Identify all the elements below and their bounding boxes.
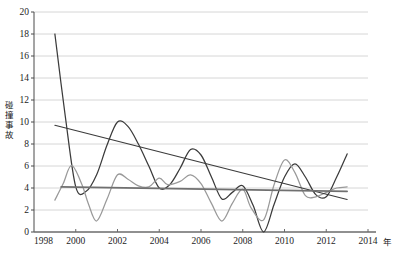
data-series-line xyxy=(55,34,347,232)
y-axis-title-char: 事 xyxy=(5,120,14,130)
y-tick-label: 16 xyxy=(20,51,30,61)
x-tick-label: 2000 xyxy=(66,236,85,246)
x-tick-label: 2004 xyxy=(150,236,169,246)
y-axis-title-char: 碰 xyxy=(5,100,14,110)
y-tick-label: 14 xyxy=(20,73,30,83)
gridlines-group xyxy=(34,12,368,210)
y-tick-labels-group: 02468101214161820 xyxy=(20,7,30,237)
x-tick-label: 2012 xyxy=(317,236,336,246)
y-tick-label: 0 xyxy=(24,227,29,237)
y-tick-label: 10 xyxy=(20,117,30,127)
x-tick-label: 2010 xyxy=(275,236,294,246)
data-series-group xyxy=(55,34,347,232)
y-tick-label: 12 xyxy=(20,95,30,105)
x-tick-label: 2006 xyxy=(192,236,211,246)
y-tick-label: 4 xyxy=(24,183,29,193)
y-tick-label: 8 xyxy=(24,139,29,149)
chart-container: 02468101214161820 1998200020022004200620… xyxy=(0,0,405,254)
y-axis-title-char: 故 xyxy=(5,130,14,140)
x-tick-label: 2014 xyxy=(359,236,378,246)
y-tick-label: 20 xyxy=(20,7,30,17)
y-axis-title: 碰撞事故 xyxy=(5,100,14,140)
y-axis-title-char: 撞 xyxy=(5,110,14,120)
x-tick-labels-group: 199820002002200420062008201020122014 xyxy=(34,236,378,246)
y-tick-label: 6 xyxy=(24,161,29,171)
x-tick-label: 1998 xyxy=(34,236,53,246)
x-axis-title: 年 xyxy=(383,237,392,247)
y-tick-label: 2 xyxy=(24,205,29,215)
x-tick-label: 2008 xyxy=(233,236,252,246)
x-tick-label: 2002 xyxy=(108,236,127,246)
y-tick-label: 18 xyxy=(20,29,30,39)
line-chart: 02468101214161820 1998200020022004200620… xyxy=(0,0,405,254)
